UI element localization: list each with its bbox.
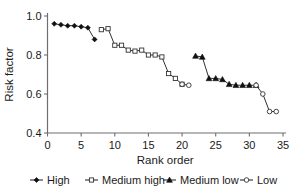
y-axis-ticks: 0.40.60.81.0 [26, 10, 47, 139]
data-point [79, 24, 84, 29]
x-tick-label: 20 [176, 139, 188, 151]
data-point [119, 43, 123, 47]
series-line [256, 85, 276, 111]
data-point [254, 83, 259, 88]
data-point [180, 82, 185, 87]
data-point [274, 109, 279, 114]
legend-item-medium-low[interactable]: Medium low [163, 174, 239, 186]
y-axis-title: Risk factor [3, 47, 15, 101]
legend-item-medium-high[interactable]: Medium high [85, 174, 165, 186]
data-point [160, 55, 164, 59]
data-point [65, 23, 70, 28]
series-high [52, 21, 97, 42]
y-tick-label: 0.6 [26, 88, 41, 100]
x-tick-label: 5 [78, 139, 84, 151]
data-point [153, 53, 157, 57]
data-point [226, 81, 232, 86]
chart-figure: 0.40.60.81.005101520253035Rank orderRisk… [0, 0, 296, 196]
data-point [99, 28, 103, 32]
y-tick-label: 0.8 [26, 49, 41, 61]
x-tick-label: 10 [109, 139, 121, 151]
x-tick-label: 30 [243, 139, 255, 151]
legend-marker-open-square [89, 178, 93, 182]
data-point [72, 23, 77, 28]
data-point [261, 92, 266, 97]
risk-factor-rank-order-chart: 0.40.60.81.005101520253035Rank orderRisk… [0, 0, 296, 196]
series-line [196, 56, 257, 85]
x-tick-label: 25 [210, 139, 222, 151]
legend-label: Medium high [102, 174, 165, 186]
y-tick-label: 1.0 [26, 10, 41, 22]
data-point [126, 48, 130, 52]
data-point [140, 48, 144, 52]
series-medium-high [99, 27, 184, 87]
data-point [92, 37, 97, 42]
legend-marker-filled-diamond [34, 178, 39, 183]
data-point [146, 53, 150, 57]
data-point [52, 21, 57, 26]
data-point [113, 43, 117, 47]
data-point [58, 22, 63, 27]
data-point [133, 49, 137, 53]
data-point [167, 71, 171, 75]
x-axis-title: Rank order [137, 154, 194, 166]
data-point [106, 27, 110, 31]
legend-label: High [47, 174, 70, 186]
legend-item-low[interactable]: Low [240, 174, 277, 186]
x-tick-label: 15 [142, 139, 154, 151]
data-point [187, 83, 192, 88]
chart-legend: HighMedium highMedium lowLow [30, 174, 277, 186]
legend-item-high[interactable]: High [30, 174, 70, 186]
data-point [267, 109, 272, 114]
legend-marker-open-circle [244, 178, 249, 183]
x-axis-ticks: 05101520253035 [44, 133, 289, 151]
y-tick-label: 0.4 [26, 127, 41, 139]
x-tick-label: 35 [277, 139, 289, 151]
data-point [85, 25, 90, 30]
data-point [193, 53, 199, 58]
legend-label: Low [257, 174, 277, 186]
series-medium-low [193, 53, 259, 87]
data-point [173, 76, 177, 80]
x-tick-label: 0 [44, 139, 50, 151]
legend-label: Medium low [180, 174, 239, 186]
